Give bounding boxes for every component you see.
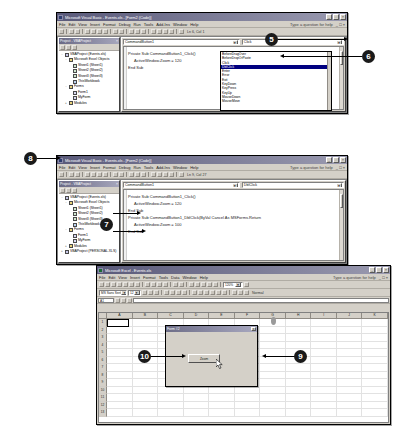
grid-cell[interactable] <box>260 327 286 335</box>
menu-data[interactable]: Data <box>171 275 179 280</box>
excel-worksheet-grid[interactable]: ABCDEFGHIJK 12345678910111213 Form #2 x … <box>98 312 389 423</box>
grid-cell[interactable] <box>158 387 184 395</box>
grid-cell[interactable] <box>260 342 286 350</box>
grid-cell[interactable] <box>337 357 363 365</box>
grid-cell[interactable] <box>260 334 286 342</box>
ask-a-question-box[interactable]: Type a question for help <box>290 165 333 170</box>
merge-center-icon[interactable] <box>182 290 187 295</box>
maximize-button[interactable]: □ <box>333 157 339 163</box>
ask-a-question-box[interactable]: Type a question for help <box>290 22 333 27</box>
increase-indent-icon[interactable] <box>216 290 221 295</box>
toggle-folders-icon[interactable] <box>72 188 77 193</box>
grid-cell[interactable] <box>362 372 388 380</box>
cut-icon[interactable] <box>145 282 150 287</box>
comma-icon[interactable] <box>204 290 209 295</box>
grid-cell[interactable] <box>362 394 388 402</box>
confirm-edit-icon[interactable] <box>121 298 126 303</box>
tree-twisty-icon[interactable]: + <box>60 249 64 254</box>
excel-window-buttons[interactable]: _ □ × <box>369 267 389 273</box>
menu-tools[interactable]: Tools <box>144 22 153 27</box>
menu-run[interactable]: Run <box>133 22 140 27</box>
print-icon[interactable] <box>123 282 128 287</box>
row-header-column[interactable]: 12345678910111213 <box>99 319 107 417</box>
close-button[interactable]: × <box>340 14 346 20</box>
procedure-dropdown-list[interactable]: BeforeDragOverBeforeDropOrPasteClickDblC… <box>220 51 332 111</box>
grid-cell[interactable] <box>311 372 337 380</box>
vbe1-toolbar[interactable]: Ln 6, Col 1 <box>57 28 347 36</box>
break-icon[interactable] <box>135 172 140 177</box>
userform-close-icon[interactable]: x <box>251 327 256 331</box>
row-header[interactable]: 8 <box>99 372 107 380</box>
project-explorer-close-icon[interactable]: × <box>116 39 118 43</box>
grid-cell[interactable] <box>260 387 286 395</box>
grid-cell[interactable] <box>184 394 210 402</box>
chevron-down-icon[interactable]: ▼ <box>232 40 238 45</box>
copy-icon[interactable] <box>91 172 96 177</box>
excel-menubar[interactable]: File Edit View Insert Format Tools Data … <box>97 274 390 281</box>
bold-icon[interactable] <box>142 290 147 295</box>
vbe2-code-editor[interactable]: Private Sub CommandButton1_Click()Active… <box>123 189 344 261</box>
spelling-icon[interactable] <box>135 282 140 287</box>
grid-cell[interactable] <box>311 364 337 372</box>
grid-cell[interactable] <box>286 372 312 380</box>
save-icon[interactable] <box>111 282 116 287</box>
menu-addins[interactable]: Add-Ins <box>156 22 170 27</box>
mdi-window-buttons[interactable]: _ □ × <box>336 22 345 27</box>
object-browser-icon[interactable] <box>169 29 174 34</box>
menu-debug[interactable]: Debug <box>119 22 131 27</box>
grid-cell[interactable] <box>337 364 363 372</box>
grid-cell[interactable] <box>107 387 133 395</box>
break-icon[interactable] <box>135 29 140 34</box>
redo-icon[interactable] <box>119 172 124 177</box>
align-center-icon[interactable] <box>170 290 175 295</box>
menu-addins[interactable]: Add-Ins <box>156 165 170 170</box>
grid-cell[interactable] <box>260 372 286 380</box>
grid-cell[interactable] <box>362 364 388 372</box>
grid-cell[interactable] <box>286 402 312 410</box>
paste-icon[interactable] <box>157 282 162 287</box>
grid-cell[interactable] <box>184 402 210 410</box>
dropdown-scrollbar[interactable] <box>327 52 331 110</box>
menu-format[interactable]: Format <box>103 165 116 170</box>
project-explorer-close-icon[interactable]: × <box>116 182 118 186</box>
grid-cell[interactable] <box>260 394 286 402</box>
grid-cell[interactable] <box>337 379 363 387</box>
run-icon[interactable] <box>129 172 134 177</box>
grid-cell[interactable] <box>260 364 286 372</box>
drawing-icon[interactable] <box>213 282 218 287</box>
find-icon[interactable] <box>103 172 108 177</box>
excel-formula-bar[interactable]: A1 <box>97 297 390 304</box>
grid-cell[interactable] <box>107 379 133 387</box>
menu-help[interactable]: Help <box>190 165 198 170</box>
mdi-window-buttons[interactable]: _ □ × <box>336 165 345 170</box>
object-browser-icon[interactable] <box>169 172 174 177</box>
view-code-icon[interactable] <box>60 45 65 50</box>
grid-cell[interactable] <box>133 394 159 402</box>
grid-cell[interactable] <box>286 409 312 417</box>
menu-view[interactable]: View <box>118 275 127 280</box>
view-object-icon[interactable] <box>66 188 71 193</box>
menu-view[interactable]: View <box>78 165 87 170</box>
view-object-icon[interactable] <box>66 45 71 50</box>
menu-help[interactable]: Help <box>200 275 208 280</box>
format-painter-icon[interactable] <box>163 282 168 287</box>
menu-file[interactable]: File <box>59 22 65 27</box>
row-header[interactable]: 4 <box>99 342 107 350</box>
grid-cell[interactable] <box>311 379 337 387</box>
dropdown-option[interactable]: MouseMove <box>221 99 331 103</box>
font-color-icon[interactable] <box>244 290 249 295</box>
italic-icon[interactable] <box>148 290 153 295</box>
mdi-window-buttons[interactable]: _ □ × <box>379 275 388 280</box>
grid-cell[interactable] <box>133 327 159 335</box>
undo-icon[interactable] <box>113 29 118 34</box>
design-mode-icon[interactable] <box>151 29 156 34</box>
percent-icon[interactable] <box>198 290 203 295</box>
grid-cell[interactable] <box>362 409 388 417</box>
row-header[interactable]: 13 <box>99 409 107 417</box>
grid-cell[interactable] <box>235 394 261 402</box>
grid-cell[interactable] <box>133 342 159 350</box>
grid-cell[interactable] <box>107 319 133 327</box>
paste-icon[interactable] <box>97 29 102 34</box>
save-icon[interactable] <box>75 29 80 34</box>
toolbox-icon[interactable] <box>179 29 184 34</box>
